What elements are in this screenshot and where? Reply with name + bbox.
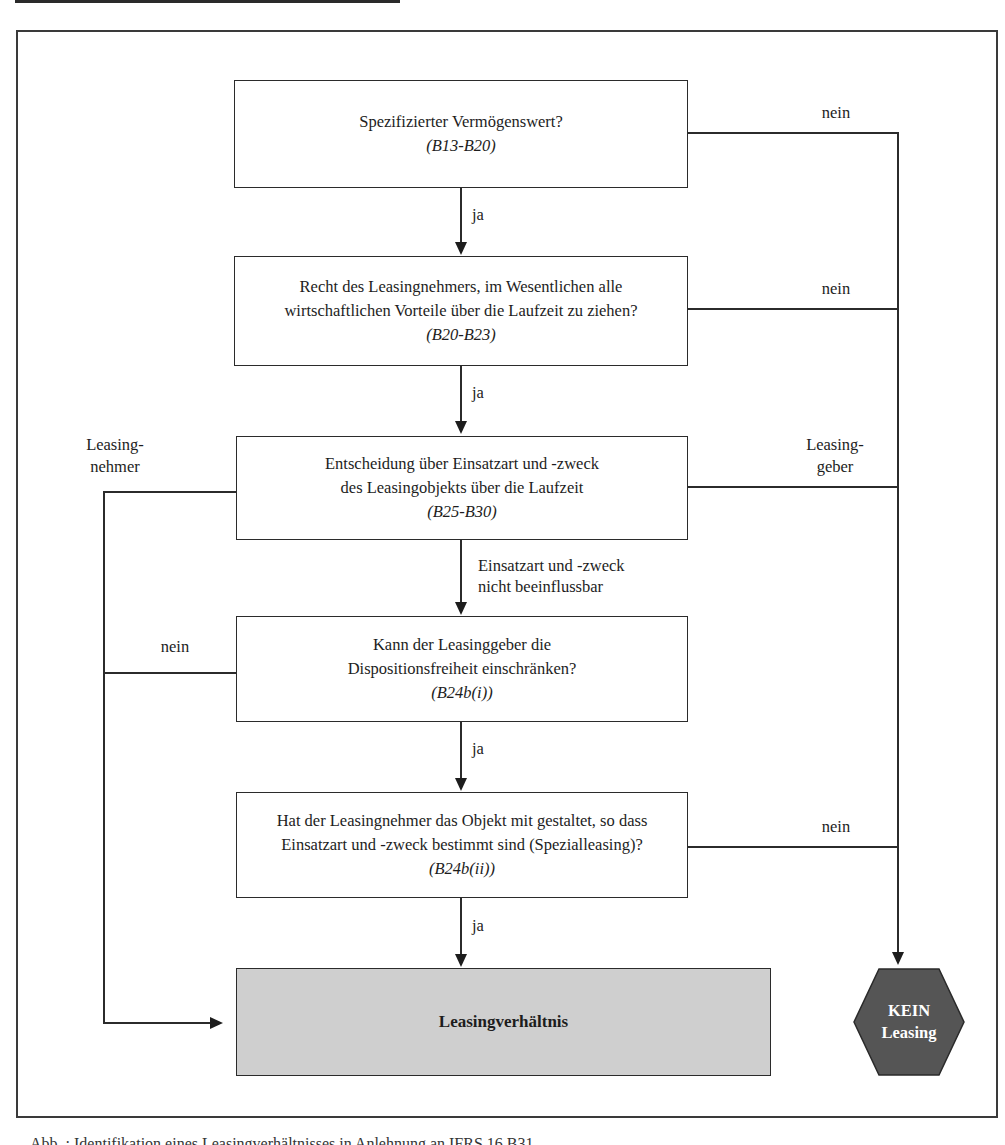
- decision-box-special-leasing: Hat der Leasingnehmer das Objekt mit ges…: [236, 792, 688, 898]
- decision-text-line2: Dispositionsfreiheit einschränken?: [348, 657, 577, 681]
- connector-q3-leasingnehmer: [103, 491, 236, 493]
- no-leasing-line1: KEIN: [888, 1000, 930, 1022]
- decision-text: Spezifizierter Vermögenswert?: [359, 110, 563, 134]
- decision-text-line1: Recht des Leasingnehmers, im Wesentliche…: [300, 275, 623, 299]
- outcome-no-leasing: KEIN Leasing: [853, 968, 965, 1076]
- arrow-down-icon: [455, 954, 467, 967]
- figure-caption: Abb. : Identifikation eines Leasingverhä…: [30, 1130, 990, 1145]
- arrow-down-icon: [455, 421, 467, 434]
- decision-text-line2: wirtschaftlichen Vorteile über die Laufz…: [284, 299, 637, 323]
- connector-q5-nein: [688, 846, 898, 848]
- edge-label-not-influenceable-line1: Einsatzart und -zweck: [478, 555, 625, 577]
- decision-box-right-to-direct: Entscheidung über Einsatzart und -zweck …: [236, 436, 688, 540]
- connector-q1-q2: [460, 188, 462, 243]
- edge-label-not-influenceable-line2: nicht beeinflussbar: [478, 576, 603, 598]
- decision-box-specified-asset: Spezifizierter Vermögenswert? (B13-B20): [234, 80, 688, 188]
- edge-label-ja: ja: [472, 738, 484, 760]
- decision-text-line2: Einsatzart und -zweck bestimmt sind (Spe…: [281, 833, 643, 857]
- connector-q4-nein: [103, 672, 236, 674]
- decision-text-line1: Kann der Leasinggeber die: [373, 633, 551, 657]
- connector-q1-nein: [688, 132, 898, 134]
- edge-label-ja: ja: [472, 204, 484, 226]
- edge-label-nein: nein: [806, 278, 866, 300]
- edge-label-ja: ja: [472, 382, 484, 404]
- outcome-leasing-box: Leasingverhältnis: [236, 968, 771, 1076]
- decision-reference: (B24b(ii)): [429, 857, 495, 881]
- connector-left-to-outcome: [103, 1022, 213, 1024]
- connector-q2-nein: [688, 308, 898, 310]
- connector-q3-leasinggeber: [688, 486, 898, 488]
- edge-label-leasingnehmer-line1: Leasing-: [60, 434, 170, 456]
- decision-box-economic-benefits: Recht des Leasingnehmers, im Wesentliche…: [234, 256, 688, 366]
- edge-label-leasingnehmer-line2: nehmer: [60, 456, 170, 478]
- connector-right-trunk: [897, 132, 899, 954]
- edge-label-nein: nein: [145, 636, 205, 658]
- edge-label-nein: nein: [806, 102, 866, 124]
- decision-reference: (B13-B20): [426, 134, 496, 158]
- no-leasing-line2: Leasing: [881, 1022, 936, 1044]
- arrow-down-icon: [455, 242, 467, 255]
- decision-reference: (B24b(i)): [431, 681, 492, 705]
- decision-text-line1: Entscheidung über Einsatzart und -zweck: [325, 452, 599, 476]
- connector-q2-q3: [460, 366, 462, 422]
- edge-label-leasinggeber-line2: geber: [790, 456, 880, 478]
- decision-reference: (B20-B23): [426, 323, 496, 347]
- outcome-leasing-label: Leasingverhältnis: [439, 1010, 568, 1034]
- connector-q3-q4: [460, 540, 462, 603]
- arrow-right-icon: [210, 1017, 223, 1029]
- arrow-down-icon: [455, 602, 467, 615]
- decision-text-line1: Hat der Leasingnehmer das Objekt mit ges…: [277, 809, 648, 833]
- decision-text-line2: des Leasingobjekts über die Laufzeit: [341, 476, 584, 500]
- arrow-down-icon: [455, 778, 467, 791]
- connector-q4-q5: [460, 722, 462, 779]
- edge-label-nein: nein: [806, 816, 866, 838]
- edge-label-ja: ja: [472, 915, 484, 937]
- decision-box-lessor-restriction: Kann der Leasinggeber die Dispositionsfr…: [236, 616, 688, 722]
- arrow-down-icon: [892, 952, 904, 965]
- decision-reference: (B25-B30): [427, 500, 497, 524]
- connector-q5-outcome: [460, 898, 462, 955]
- connector-left-trunk: [103, 491, 105, 1023]
- edge-label-leasinggeber-line1: Leasing-: [790, 434, 880, 456]
- top-rule: [15, 0, 400, 3]
